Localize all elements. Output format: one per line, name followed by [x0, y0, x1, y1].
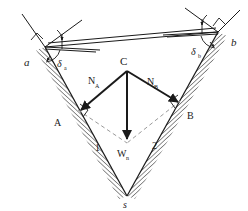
crest-line-ab [45, 32, 218, 47]
label-force-NA-subscript: A [95, 83, 100, 89]
right-ground-trace [218, 10, 240, 32]
force-vectors [81, 71, 178, 139]
label-plane-1: 1 [95, 142, 100, 153]
wedge-free-body-diagram: a b δ a δ b C N A N B W n A B 1 2 s [0, 0, 248, 211]
label-point-A: A [54, 117, 62, 128]
label-delta-b-subscript: b [198, 53, 201, 59]
label-delta-b: δ [191, 46, 196, 57]
label-force-Wn-subscript: n [126, 155, 129, 161]
hatched-rock-mass-left [36, 47, 127, 199]
label-point-a: a [24, 56, 30, 68]
label-point-B: B [187, 110, 194, 121]
hatched-rock-mass-right [127, 32, 227, 199]
left-arc-upper [57, 30, 62, 40]
label-point-b: b [231, 36, 237, 48]
left-ground-trace [22, 14, 45, 47]
right-vertex-construction [163, 8, 240, 37]
left-vertex-construction [22, 14, 100, 52]
wedge-plane-2-line [127, 32, 218, 196]
label-bottom-s: s [123, 199, 127, 210]
label-delta-a: δ [57, 58, 62, 69]
label-force-NB-subscript: B [154, 84, 158, 90]
left-dip-ray [45, 20, 82, 47]
label-plane-2: 2 [152, 140, 157, 151]
label-apex-C: C [120, 55, 127, 67]
label-delta-a-subscript: a [64, 65, 67, 71]
right-right-angle-marker [213, 18, 226, 26]
left-right-angle-marker [31, 33, 43, 40]
right-dip-ray [185, 8, 218, 32]
